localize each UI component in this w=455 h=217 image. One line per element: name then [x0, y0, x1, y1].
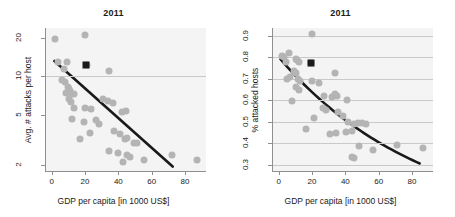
panel-right-data-point	[302, 126, 309, 133]
panel-right-data-point	[310, 115, 317, 122]
panel-right-ytick	[268, 143, 272, 144]
panel-right: 2011 % attacked hosts GDP per capita [in…	[227, 0, 454, 217]
panel-right-data-point	[331, 70, 338, 77]
panel-right-ytick	[268, 100, 272, 101]
panel-left-xtick-label: 20	[81, 177, 90, 186]
panel-left-data-point	[52, 36, 59, 43]
panel-left-xtick-label: 40	[114, 177, 123, 186]
panel-right-data-point	[320, 92, 327, 99]
panel-left-ylabel: Avg. # attacks per host	[23, 30, 33, 170]
panel-left: 2011 Avg. # attacks per host GDP per cap…	[0, 0, 227, 217]
panel-right-data-point	[370, 146, 377, 153]
panel-right-xaxis	[272, 171, 433, 172]
panel-right-data-point	[323, 106, 330, 113]
panel-right-xtick	[312, 171, 313, 175]
panel-left-data-point	[193, 156, 200, 163]
panel-right-xtick	[412, 171, 413, 175]
panel-left-data-point	[123, 134, 130, 141]
panel-left-xtick-label: 0	[49, 177, 53, 186]
panel-right-ytick	[268, 79, 272, 80]
panel-right-data-point	[283, 59, 290, 66]
panel-right-xtick	[379, 171, 380, 175]
panel-right-data-point	[349, 128, 356, 135]
panel-left-data-point	[81, 118, 88, 125]
panel-left-xlabel: GDP per capita [in 1000 US$]	[0, 196, 227, 206]
panel-right-data-point	[355, 143, 362, 150]
panel-left-xaxis	[45, 171, 206, 172]
panel-left-highlight-marker	[83, 61, 90, 68]
panel-right-gridline	[273, 100, 433, 101]
panel-left-xtick	[52, 171, 53, 175]
panel-left-data-point	[133, 139, 140, 146]
panel-left-xtick	[118, 171, 119, 175]
panel-left-plot-area	[45, 28, 206, 171]
panel-right-ytick	[268, 36, 272, 37]
panel-right-data-point	[344, 97, 351, 104]
panel-left-data-point	[95, 121, 102, 128]
panel-left-data-point	[123, 108, 130, 115]
panel-right-ytick	[268, 165, 272, 166]
panel-right-data-point	[334, 92, 341, 99]
panel-right-data-point	[333, 130, 340, 137]
panel-right-data-point	[285, 49, 292, 56]
panel-right-plot-inner	[273, 28, 433, 171]
panel-left-data-point	[71, 105, 78, 112]
panel-right-ytick-label: 0.9	[241, 20, 250, 50]
panel-right-data-point	[295, 59, 302, 66]
panel-right-data-point	[394, 142, 401, 149]
panel-left-ytick	[41, 76, 45, 77]
panel-left-xtick	[185, 171, 186, 175]
panel-right-xtick-label: 80	[408, 177, 417, 186]
panel-left-data-point	[54, 58, 61, 65]
panel-left-ytick-label: 5	[14, 99, 23, 129]
panel-left-data-point	[119, 159, 126, 166]
panel-right-ylabel: % attacked hosts	[250, 30, 260, 170]
panel-right-gridline	[273, 143, 433, 144]
panel-right-gridline	[273, 36, 433, 37]
panel-left-title: 2011	[0, 8, 227, 19]
panel-left-data-point	[109, 99, 116, 106]
panel-left-data-point	[60, 65, 67, 72]
panel-right-data-point	[295, 87, 302, 94]
panel-left-ytick	[41, 38, 45, 39]
panel-left-data-point	[105, 147, 112, 154]
panel-left-data-point	[88, 106, 95, 113]
panel-left-xtick	[152, 171, 153, 175]
panel-right-gridline	[273, 165, 433, 166]
panel-left-data-point	[77, 136, 84, 143]
panel-left-xtick	[85, 171, 86, 175]
panel-left-data-point	[87, 129, 94, 136]
panel-left-data-point	[114, 149, 121, 156]
panel-left-ytick-label: 20	[14, 23, 23, 53]
panel-left-gridline	[46, 76, 206, 77]
panel-right-data-point	[315, 79, 322, 86]
panel-left-xtick-label: 80	[181, 177, 190, 186]
panel-left-data-point	[168, 152, 175, 159]
panel-right-data-point	[289, 98, 296, 105]
panel-right-xlabel: GDP per capita [in 1000 US$]	[227, 196, 454, 206]
panel-left-data-point	[127, 154, 134, 161]
panel-right-highlight-marker	[308, 60, 315, 67]
panel-right-xtick	[345, 171, 346, 175]
panel-left-ytick-label: 10	[14, 61, 23, 91]
panel-left-data-point	[82, 32, 89, 39]
panel-right-xtick	[279, 171, 280, 175]
panel-right-xtick-label: 20	[308, 177, 317, 186]
panel-right-xtick-label: 40	[341, 177, 350, 186]
panel-left-ytick	[41, 165, 45, 166]
panel-right-data-point	[350, 155, 357, 162]
panel-right-title: 2011	[227, 8, 454, 19]
panel-right-xtick-label: 0	[276, 177, 280, 186]
panel-left-xtick-label: 60	[147, 177, 156, 186]
panel-left-plot-inner	[46, 28, 206, 171]
panel-left-ytick-label: 2	[14, 150, 23, 180]
panel-right-ytick	[268, 57, 272, 58]
panel-right-data-point	[420, 145, 427, 152]
panel-left-ytick	[41, 115, 45, 116]
panel-left-data-point	[141, 156, 148, 163]
panel-left-data-point	[105, 68, 112, 75]
panel-right-data-point	[309, 31, 316, 38]
figure-root: 2011 Avg. # attacks per host GDP per cap…	[0, 0, 455, 217]
panel-right-plot-area	[272, 28, 433, 171]
panel-right-xtick-label: 60	[374, 177, 383, 186]
